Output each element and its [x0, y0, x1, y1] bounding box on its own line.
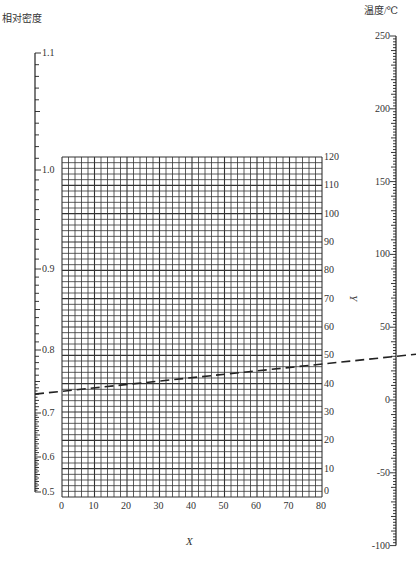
density-tick-label: 0.8 — [42, 344, 55, 355]
temperature-tick-label: 100 — [375, 248, 390, 259]
y-tick-label: 40 — [324, 378, 334, 389]
x-tick-label: 50 — [219, 500, 229, 511]
density-tick-label: 0.9 — [42, 263, 55, 274]
density-tick-label: 1.1 — [42, 47, 55, 58]
y-tick-label: 80 — [324, 264, 334, 275]
x-tick-label: 80 — [316, 500, 326, 511]
temperature-axis-title: 温度/℃ — [364, 2, 398, 17]
x-tick-label: 40 — [186, 500, 196, 511]
temperature-tick-label: 250 — [375, 30, 390, 41]
x-tick-label: 30 — [154, 500, 164, 511]
y-tick-label: 100 — [324, 208, 339, 219]
density-axis-title: 相对密度 — [2, 10, 42, 25]
x-tick-label: 0 — [59, 500, 64, 511]
y-tick-label: 90 — [324, 236, 334, 247]
temperature-tick-label: 150 — [375, 176, 390, 187]
x-tick-label: 20 — [121, 500, 131, 511]
temperature-tick-label: -50 — [377, 467, 390, 478]
temperature-tick-label: 0 — [385, 394, 390, 405]
y-tick-label: 120 — [324, 151, 339, 162]
y-tick-label: 0 — [324, 485, 329, 496]
temperature-tick-label: -100 — [372, 540, 390, 551]
temperature-tick-label: 200 — [375, 103, 390, 114]
y-tick-label: 110 — [324, 179, 339, 190]
density-tick-label: 1.0 — [42, 164, 55, 175]
x-tick-label: 70 — [284, 500, 294, 511]
y-tick-label: 30 — [324, 406, 334, 417]
y-tick-label: 60 — [324, 321, 334, 332]
x-tick-label: 60 — [251, 500, 261, 511]
nomograph-svg — [0, 0, 419, 567]
y-tick-label: 50 — [324, 349, 334, 360]
y-tick-label: 10 — [324, 463, 334, 474]
y-tick-label: 70 — [324, 293, 334, 304]
density-tick-label: 0.6 — [42, 451, 55, 462]
density-tick-label: 0.5 — [42, 486, 55, 497]
temperature-tick-label: 50 — [380, 321, 390, 332]
density-tick-label: 0.7 — [42, 407, 55, 418]
y-axis-title: Y — [348, 295, 360, 301]
y-tick-label: 20 — [324, 434, 334, 445]
x-tick-label: 10 — [89, 500, 99, 511]
x-axis-title: X — [186, 535, 193, 547]
